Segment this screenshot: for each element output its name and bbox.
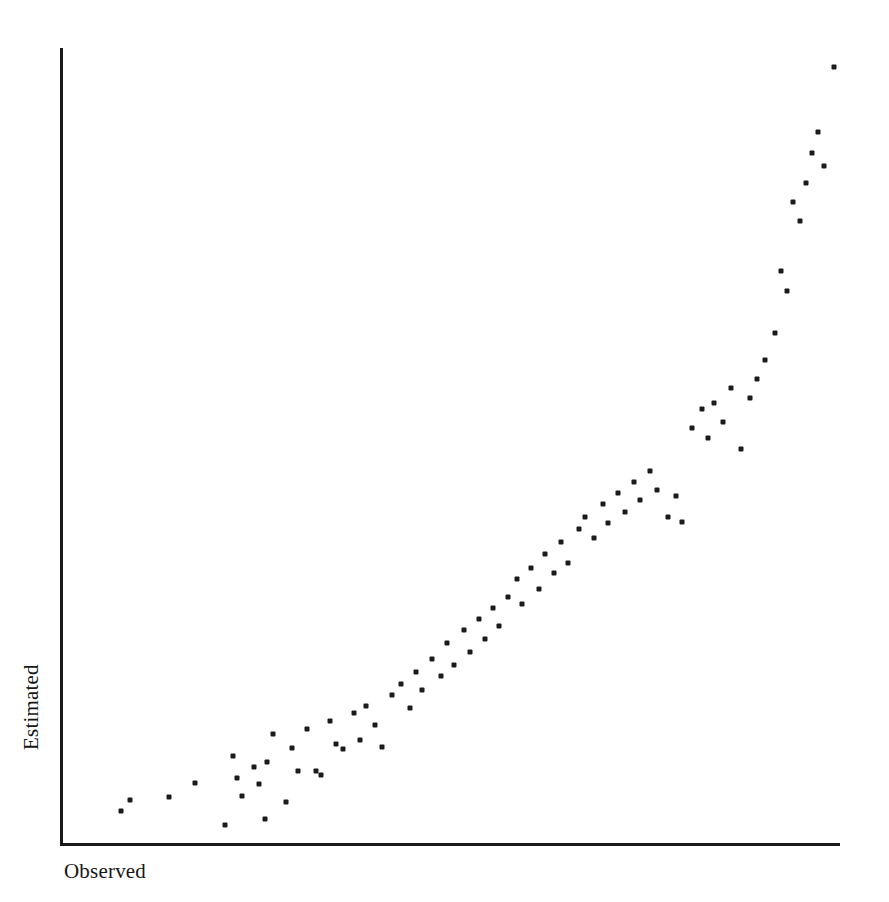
data-point — [318, 773, 323, 778]
data-point — [379, 744, 384, 749]
data-point — [754, 376, 759, 381]
data-point — [389, 693, 394, 698]
data-point — [690, 426, 695, 431]
data-point — [528, 565, 533, 570]
data-point — [461, 627, 466, 632]
data-point — [810, 150, 815, 155]
data-point — [712, 400, 717, 405]
data-point — [270, 732, 275, 737]
data-point — [648, 468, 653, 473]
data-point — [167, 794, 172, 799]
data-point — [284, 800, 289, 805]
data-point — [778, 268, 783, 273]
data-point — [514, 577, 519, 582]
data-point — [327, 719, 332, 724]
data-point — [372, 723, 377, 728]
data-point — [601, 502, 606, 507]
data-point — [468, 650, 473, 655]
data-point — [399, 682, 404, 687]
data-point — [520, 601, 525, 606]
data-point — [542, 551, 547, 556]
data-point — [605, 521, 610, 526]
data-point — [705, 435, 710, 440]
data-point — [506, 594, 511, 599]
data-point — [729, 386, 734, 391]
data-point — [831, 65, 836, 70]
data-point — [680, 519, 685, 524]
data-point — [333, 741, 338, 746]
data-point — [537, 586, 542, 591]
data-point — [252, 764, 257, 769]
data-point — [444, 641, 449, 646]
data-point — [119, 809, 124, 814]
data-point — [699, 406, 704, 411]
data-point — [622, 510, 627, 515]
data-point — [632, 480, 637, 485]
data-point — [313, 769, 318, 774]
data-point — [193, 781, 198, 786]
data-point — [413, 670, 418, 675]
data-point — [357, 737, 362, 742]
data-point — [615, 491, 620, 496]
data-point — [265, 759, 270, 764]
data-point — [816, 130, 821, 135]
data-point — [803, 181, 808, 186]
data-point — [222, 822, 227, 827]
data-point — [491, 605, 496, 610]
x-axis-line — [60, 843, 840, 846]
data-point — [304, 727, 309, 732]
data-point — [407, 705, 412, 710]
data-point — [240, 794, 245, 799]
data-point — [654, 488, 659, 493]
data-point — [482, 636, 487, 641]
plot-area — [60, 48, 840, 846]
data-point — [674, 494, 679, 499]
data-point — [235, 775, 240, 780]
data-point — [364, 704, 369, 709]
data-point — [290, 745, 295, 750]
x-axis-title: Observed — [64, 858, 146, 884]
data-point — [591, 535, 596, 540]
data-point — [430, 656, 435, 661]
data-point — [256, 782, 261, 787]
data-point — [665, 515, 670, 520]
data-point — [797, 219, 802, 224]
data-point — [263, 817, 268, 822]
data-point — [476, 616, 481, 621]
data-point — [559, 540, 564, 545]
data-point — [763, 357, 768, 362]
data-point — [496, 623, 501, 628]
data-point — [295, 768, 300, 773]
data-point — [576, 526, 581, 531]
data-point — [747, 395, 752, 400]
data-point — [451, 662, 456, 667]
data-point — [785, 289, 790, 294]
data-point — [720, 419, 725, 424]
data-point — [340, 747, 345, 752]
data-point — [438, 674, 443, 679]
data-point — [772, 330, 777, 335]
data-point — [231, 753, 236, 758]
data-point — [127, 798, 132, 803]
data-point — [566, 561, 571, 566]
y-axis-title: Estimated — [18, 620, 44, 750]
scatter-data-layer — [63, 48, 840, 843]
data-point — [738, 446, 743, 451]
data-point — [552, 570, 557, 575]
data-point — [351, 710, 356, 715]
data-point — [821, 163, 826, 168]
data-point — [583, 515, 588, 520]
data-point — [419, 687, 424, 692]
data-point — [791, 200, 796, 205]
scatter-plot-figure: Scatter plot of Estimated versus Observe… — [0, 0, 889, 902]
data-point — [637, 498, 642, 503]
